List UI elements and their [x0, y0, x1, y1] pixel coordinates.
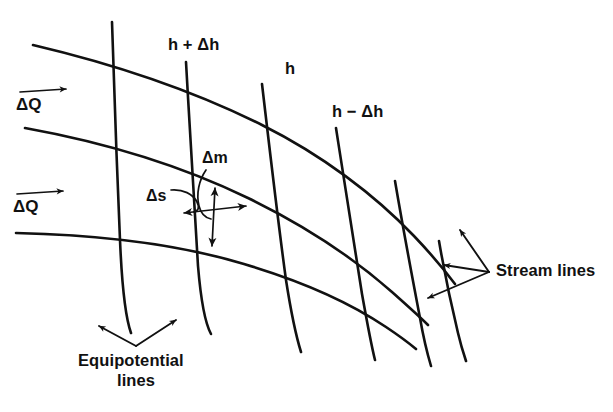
label-delta-m: Δm: [202, 150, 228, 167]
delta-q-upper-vector-arrow-icon: [20, 89, 66, 92]
delta-m-double-arrow-icon: [212, 188, 215, 246]
label-delta-q-lower: ΔQ: [13, 198, 39, 216]
equipotential-line-4: [336, 128, 375, 360]
equipotential-line-3: [262, 84, 301, 352]
label-head-h: h: [285, 60, 295, 77]
delta-q-lower-vector-arrow-icon: [17, 191, 63, 194]
equipotential-line-6: [439, 241, 466, 361]
delta-s-measure-group: [171, 190, 246, 213]
stream-lines-group: [16, 45, 455, 349]
label-delta-s: Δs: [146, 188, 167, 205]
label-delta-q-upper: ΔQ: [16, 96, 42, 114]
label-head-plus-delta-h: h + Δh: [168, 36, 219, 53]
flow-net-figure: h + Δh h h − Δh Δm Δs ΔQ ΔQ Stream lines…: [0, 0, 613, 412]
stream-line-top: [33, 45, 455, 284]
label-stream-lines: Stream lines: [496, 262, 595, 279]
label-head-minus-delta-h: h − Δh: [332, 103, 383, 120]
label-equipotential-lines-line2: lines: [117, 372, 155, 389]
stream-lines-leader-icon: [428, 230, 489, 298]
equipotential-lines-leader-icon: [99, 320, 176, 346]
label-equipotential-lines-line1: Equipotential: [78, 352, 184, 369]
